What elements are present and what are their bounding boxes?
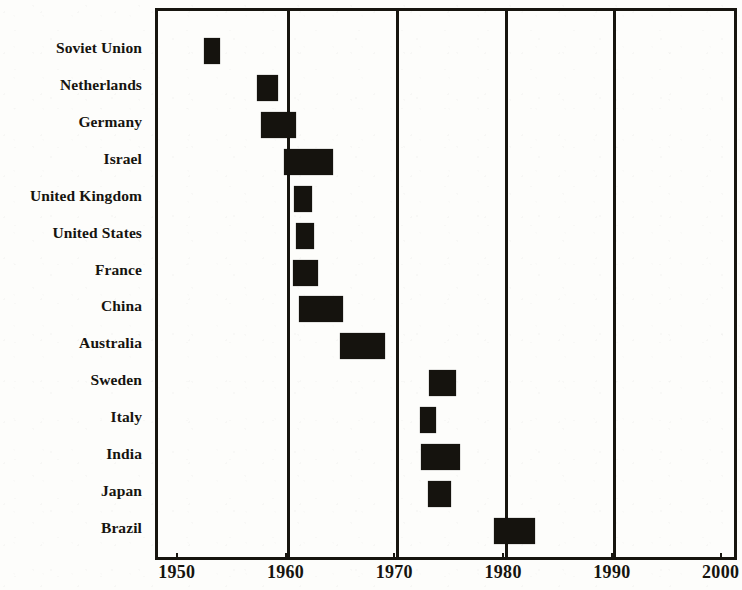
x-tick-mark-1980 <box>502 553 504 560</box>
x-tick-label-1950: 1950 <box>158 562 195 583</box>
x-tick-label-1980: 1980 <box>485 562 522 583</box>
x-tick-mark-1960 <box>285 553 287 560</box>
x-tick-label-2000: 2000 <box>702 562 739 583</box>
x-tick-mark-1950 <box>176 553 178 560</box>
x-tick-label-1990: 1990 <box>593 562 630 583</box>
x-axis-tick-labels: 195019601970198019902000 <box>0 0 742 590</box>
x-tick-mark-1990 <box>611 553 613 560</box>
chart-page: Soviet UnionNetherlandsGermanyIsraelUnit… <box>0 0 742 590</box>
x-tick-label-1970: 1970 <box>376 562 413 583</box>
x-tick-label-1960: 1960 <box>267 562 304 583</box>
x-tick-mark-1970 <box>393 553 395 560</box>
x-tick-mark-2000 <box>720 553 722 560</box>
